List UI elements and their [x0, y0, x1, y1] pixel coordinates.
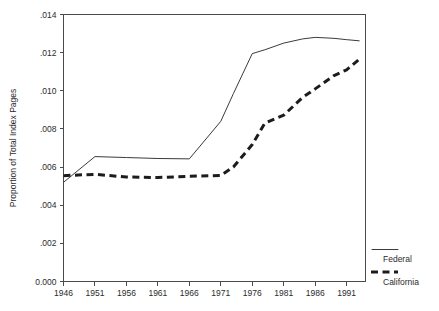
x-tick-label: 1946 — [54, 288, 73, 298]
y-axis-title: Proportion of Total Index Pages — [8, 89, 18, 207]
legend: Federal California — [371, 250, 419, 288]
x-axis-ticks — [64, 282, 347, 286]
legend-label-california: California — [383, 277, 419, 287]
x-tick-label: 1991 — [337, 288, 356, 298]
y-axis-title-group: Proportion of Total Index Pages — [8, 89, 18, 207]
y-tick-label: .012 — [40, 48, 57, 58]
x-tick-label: 1951 — [85, 288, 104, 298]
legend-label-federal: Federal — [383, 254, 412, 264]
y-axis-tick-labels: 0.000.002.004.006.008.010.012.014 — [35, 10, 57, 287]
y-tick-label: .006 — [40, 162, 57, 172]
plot-border — [64, 15, 366, 282]
x-tick-label: 1971 — [211, 288, 230, 298]
x-tick-label: 1966 — [180, 288, 199, 298]
y-axis-ticks — [60, 15, 64, 282]
x-tick-label: 1976 — [243, 288, 262, 298]
x-tick-label: 1981 — [274, 288, 293, 298]
data-series-layer — [64, 37, 360, 182]
series-line-federal — [64, 37, 360, 182]
y-tick-label: .008 — [40, 124, 57, 134]
chart-figure: 0.000.002.004.006.008.010.012.014 194619… — [0, 0, 439, 311]
x-axis-tick-labels: 1946195119561961196619711976198119861991 — [54, 288, 356, 298]
x-tick-label: 1986 — [306, 288, 325, 298]
y-tick-label: .010 — [40, 86, 57, 96]
y-tick-label: .002 — [40, 238, 57, 248]
plot-frame — [64, 15, 366, 282]
y-tick-label: .014 — [40, 10, 57, 20]
series-line-california — [64, 59, 360, 177]
y-tick-label: .004 — [40, 200, 57, 210]
x-tick-label: 1961 — [148, 288, 167, 298]
x-tick-label: 1956 — [117, 288, 136, 298]
line-chart: 0.000.002.004.006.008.010.012.014 194619… — [0, 0, 439, 311]
y-tick-label: 0.000 — [35, 277, 57, 287]
